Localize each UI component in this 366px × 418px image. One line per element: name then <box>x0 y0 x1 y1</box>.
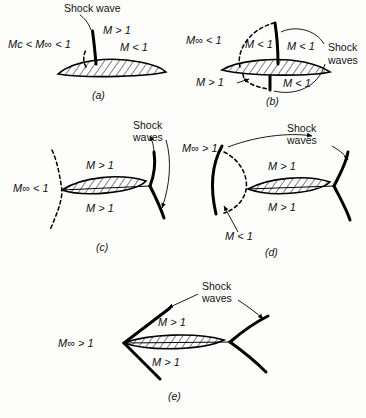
lower-shock-leader-c <box>162 140 169 208</box>
upper-pocket-label-b: M < 1 <box>245 38 273 50</box>
freestream-label-b: M∞ < 1 <box>186 34 222 46</box>
upper-supersonic-label-c: M > 1 <box>86 159 114 171</box>
lower-aft-label-b: M < 1 <box>283 77 311 89</box>
shock-waves-label-b-line2: waves <box>327 54 358 66</box>
lower-te-shock-c <box>150 186 164 218</box>
panel-e: Shock waves M > 1 M > 1 M∞ > 1 (e) <box>58 280 268 402</box>
shock-waves-label-e-line1: Shock <box>202 280 232 292</box>
freestream-label-a: Mᴄ < M∞ < 1 <box>8 38 71 50</box>
lower-supersonic-label-e: M > 1 <box>152 356 180 368</box>
sonic-line-d <box>224 152 246 213</box>
lower-te-shock-e <box>230 342 266 372</box>
te-shock-leader-e <box>238 300 263 319</box>
caption-e: (e) <box>168 390 181 402</box>
lower-supersonic-label-d: M > 1 <box>268 201 296 213</box>
lower-supersonic-label-c: M > 1 <box>86 202 114 214</box>
bow-shock-d <box>213 146 222 214</box>
transonic-flow-figure: Shock wave M > 1 M < 1 Mᴄ < M∞ < 1 (a) S… <box>0 0 366 418</box>
airfoil-hatching-c <box>62 177 146 194</box>
lower-sonic-line-b <box>243 74 268 89</box>
freestream-label-c: M∞ < 1 <box>13 182 49 194</box>
caption-a: (a) <box>92 89 105 101</box>
panel-c: Shock waves M > 1 M > 1 M∞ < 1 (c) <box>13 119 169 253</box>
shock-waves-label-d-line1: Shock <box>287 122 317 134</box>
panel-b: Shock waves M < 1 M < 1 M > 1 M < 1 M∞ <… <box>186 23 358 107</box>
upper-supersonic-label-d: M > 1 <box>268 160 296 172</box>
upper-te-shock-e <box>230 316 268 342</box>
panel-d: Shock waves M > 1 M > 1 M < 1 M∞ > 1 (d) <box>182 122 350 258</box>
subsonic-pocket-label-d: M < 1 <box>225 230 253 242</box>
freestream-label-e: M∞ > 1 <box>58 337 94 349</box>
shock-waves-label-c-line1: Shock <box>133 119 163 131</box>
lower-pocket-label-b: M > 1 <box>196 76 224 88</box>
panel-a: Shock wave M > 1 M < 1 Mᴄ < M∞ < 1 (a) <box>8 2 166 101</box>
upper-aft-label-b: M < 1 <box>287 40 315 52</box>
shock-waves-label-c-line2: waves <box>132 131 163 143</box>
upper-shock-leader-e <box>168 294 198 308</box>
supersonic-pocket-label-a: M > 1 <box>103 24 131 36</box>
airfoil-hatching-d <box>248 178 330 194</box>
caption-d: (d) <box>265 246 278 258</box>
lower-te-shock-d <box>334 186 350 220</box>
sonic-line-c <box>50 150 62 230</box>
upper-supersonic-label-e: M > 1 <box>158 316 186 328</box>
shock-wave-a <box>93 31 97 64</box>
caption-b: (b) <box>266 95 279 107</box>
caption-c: (c) <box>96 241 108 253</box>
shock-leader-a <box>80 15 91 30</box>
subsonic-aft-label-a: M < 1 <box>120 41 148 53</box>
upper-shock-b <box>275 23 278 64</box>
shock-wave-label-a: Shock wave <box>64 2 121 14</box>
shock-waves-label-b-line1: Shock <box>328 41 358 53</box>
shock-waves-label-e-line2: waves <box>201 292 232 304</box>
upper-te-shock-c <box>150 152 155 186</box>
freestream-label-d: M∞ > 1 <box>182 142 218 154</box>
airfoil-hatching-a <box>58 59 166 76</box>
shock-waves-label-d-line2: waves <box>286 134 317 146</box>
